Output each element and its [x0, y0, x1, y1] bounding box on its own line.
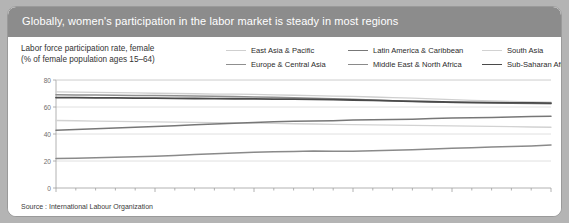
- chart-legend: East Asia & PacificLatin America & Carib…: [226, 43, 562, 71]
- legend-line-swatch: [482, 50, 502, 51]
- legend-line-swatch: [226, 64, 246, 65]
- data-series-line: [56, 116, 551, 130]
- plot-area: 020406080198019851990199520002005: [8, 68, 562, 194]
- y-tick-label: 40: [44, 131, 52, 138]
- line-chart-svg: 020406080198019851990199520002005: [8, 68, 562, 194]
- chart-panel: Globally, women's participation in the l…: [7, 6, 562, 217]
- legend-label: Latin America & Caribbean: [373, 46, 463, 55]
- legend-line-swatch: [482, 64, 502, 65]
- y-tick-label: 20: [44, 158, 52, 165]
- legend-line-swatch: [348, 64, 368, 65]
- legend-line-swatch: [226, 50, 246, 51]
- chart-content: Labor force participation rate, female (…: [8, 37, 561, 217]
- y-axis-caption-line2: (% of female population ages 15–64): [21, 54, 155, 65]
- figure-container: Globally, women's participation in the l…: [0, 0, 569, 223]
- y-tick-label: 80: [44, 77, 52, 84]
- y-tick-label: 0: [47, 185, 51, 192]
- y-axis-caption-line1: Labor force participation rate, female: [21, 43, 155, 54]
- legend-label: East Asia & Pacific: [251, 46, 314, 55]
- data-series-line: [56, 145, 551, 158]
- y-tick-label: 60: [44, 104, 52, 111]
- legend-item: Latin America & Caribbean: [348, 43, 482, 57]
- page-title: Globally, women's participation in the l…: [22, 15, 398, 27]
- legend-line-swatch: [348, 50, 368, 51]
- data-series-line: [56, 92, 551, 102]
- title-bar: Globally, women's participation in the l…: [8, 7, 561, 37]
- source-note: Source : International Labour Organizati…: [21, 203, 153, 210]
- legend-label: South Asia: [507, 46, 543, 55]
- y-axis-caption: Labor force participation rate, female (…: [21, 43, 155, 65]
- legend-item: South Asia: [482, 43, 562, 57]
- legend-item: East Asia & Pacific: [226, 43, 348, 57]
